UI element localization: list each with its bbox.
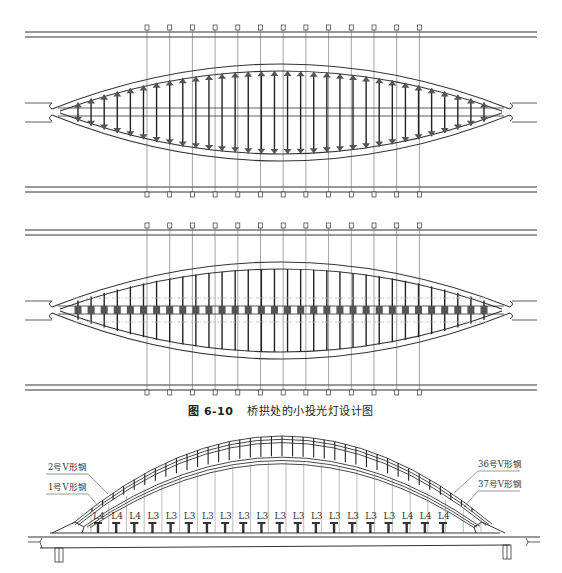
lamp-label: L4 bbox=[129, 511, 141, 521]
figure-title: 桥拱处的小投光灯设计图 bbox=[247, 405, 374, 418]
lamp-label: L3 bbox=[293, 511, 305, 521]
lamp-label: L3 bbox=[147, 511, 159, 521]
lamp-label: L3 bbox=[275, 511, 287, 521]
callout-right-37: 37号V形钢 bbox=[478, 479, 522, 489]
lamp-label: L4 bbox=[420, 511, 432, 521]
lamp-label: L3 bbox=[202, 511, 214, 521]
plan-view-upward-lights bbox=[25, 25, 537, 197]
lamp-label: L3 bbox=[384, 511, 396, 521]
lamp-label: L3 bbox=[184, 511, 196, 521]
lamp-label: L4 bbox=[93, 511, 105, 521]
lamp-label: L3 bbox=[238, 511, 250, 521]
figure-number: 图 6-10 bbox=[188, 405, 233, 418]
lamp-label: L3 bbox=[365, 511, 377, 521]
lamp-label: L3 bbox=[166, 511, 178, 521]
plan-view-center-lights bbox=[25, 223, 537, 395]
figure-caption: 图 6-10桥拱处的小投光灯设计图 bbox=[0, 402, 562, 418]
lamp-label: L3 bbox=[347, 511, 359, 521]
lamp-label: L4 bbox=[402, 511, 414, 521]
lamp-label: L4 bbox=[438, 511, 450, 521]
callout-left-2: 2号V形钢 bbox=[48, 462, 87, 472]
callout-left-1: 1号V形钢 bbox=[48, 482, 87, 492]
lamp-label: L3 bbox=[329, 511, 341, 521]
bridge-lighting-drawing: L4L4L4L3L3L3L3L3L3L3L3L3L3L3L3L3L3L4L4L4… bbox=[0, 0, 562, 573]
lamp-label: L3 bbox=[220, 511, 232, 521]
lamp-label: L4 bbox=[111, 511, 123, 521]
elevation-view: L4L4L4L3L3L3L3L3L3L3L3L3L3L3L3L3L3L4L4L4… bbox=[28, 436, 540, 562]
callout-right-36: 36号V形钢 bbox=[478, 459, 522, 469]
lamp-label: L3 bbox=[256, 511, 268, 521]
lamp-label: L3 bbox=[311, 511, 323, 521]
